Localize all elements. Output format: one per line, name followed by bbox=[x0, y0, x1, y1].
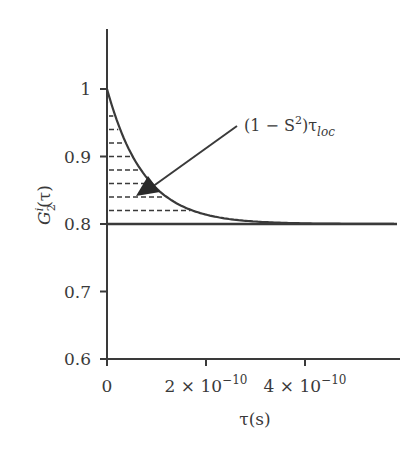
decay-curve bbox=[107, 89, 394, 224]
x-tick-label: 0 bbox=[102, 376, 113, 396]
y-tick-label: 1 bbox=[80, 79, 91, 99]
chart: 10.90.80.70.6 02 × 10−104 × 10−10 (1 − S… bbox=[0, 0, 420, 451]
arrow-head-icon bbox=[136, 176, 160, 196]
hatch-area bbox=[109, 103, 191, 211]
y-axis-title: G2i(τ) bbox=[33, 185, 58, 225]
x-axis-title: τ(s) bbox=[239, 409, 270, 429]
annotation-label: (1 − S2)τloc bbox=[244, 114, 335, 139]
y-tick-label: 0.6 bbox=[64, 349, 91, 369]
y-tick-label: 0.8 bbox=[64, 214, 91, 234]
y-tick-label: 0.9 bbox=[64, 147, 91, 167]
x-tick-label: 4 × 10−10 bbox=[264, 373, 347, 396]
y-ticks: 10.90.80.70.6 bbox=[64, 79, 107, 369]
annotation-arrow-line bbox=[152, 126, 237, 187]
x-ticks: 02 × 10−104 × 10−10 bbox=[102, 359, 347, 396]
x-tick-label: 2 × 10−10 bbox=[165, 373, 248, 396]
y-tick-label: 0.7 bbox=[64, 282, 91, 302]
